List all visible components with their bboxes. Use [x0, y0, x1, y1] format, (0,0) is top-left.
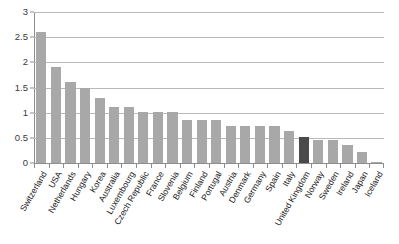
bar-austria[interactable]: [226, 126, 236, 163]
x-axis-labels: SwitzerlandUSANetherlandsHungaryKoreaAus…: [34, 168, 384, 244]
x-label-wrap: Korea: [92, 168, 107, 244]
bar-slot: [63, 12, 78, 163]
bar-slot: [165, 12, 180, 163]
bar-slot: [296, 12, 311, 163]
x-label-wrap: Finland: [194, 168, 209, 244]
bar-slot: [136, 12, 151, 163]
bar-italy[interactable]: [284, 131, 294, 163]
y-tick-label: 1.5: [15, 83, 28, 93]
bar-slot: [369, 12, 384, 163]
bar-slot: [107, 12, 122, 163]
bar-slot: [238, 12, 253, 163]
bar-slot: [92, 12, 107, 163]
x-label-wrap: France: [151, 168, 166, 244]
bar-luxembourg[interactable]: [124, 107, 134, 163]
bar-finland[interactable]: [197, 120, 207, 163]
y-tick-label: 2: [23, 58, 28, 68]
bar-belgium[interactable]: [182, 120, 192, 163]
x-label-wrap: Spain: [267, 168, 282, 244]
bar-spain[interactable]: [269, 126, 279, 163]
plot-area: [34, 12, 384, 163]
bar-germany[interactable]: [255, 126, 265, 163]
x-label-wrap: United Kingdom: [297, 168, 312, 244]
bar-slot: [209, 12, 224, 163]
x-label-wrap: Austria: [224, 168, 239, 244]
bar-slot: [267, 12, 282, 163]
x-label-wrap: Belgium: [180, 168, 195, 244]
x-axis-label-spain: Spain: [264, 170, 282, 193]
bar-czech-republic[interactable]: [138, 112, 148, 163]
bar-slot: [194, 12, 209, 163]
bar-slot: [180, 12, 195, 163]
bar-netherlands[interactable]: [65, 82, 75, 163]
x-label-wrap: Switzerland: [34, 168, 49, 244]
x-label-wrap: Netherlands: [63, 168, 78, 244]
bar-united-kingdom[interactable]: [299, 137, 309, 163]
bar-france[interactable]: [153, 112, 163, 163]
y-tick-label: 1: [23, 108, 28, 118]
bar-slot: [78, 12, 93, 163]
x-label-wrap: Japan: [355, 168, 370, 244]
bar-portugal[interactable]: [211, 120, 221, 163]
x-label-wrap: Sweden: [326, 168, 341, 244]
x-label-wrap: Hungary: [78, 168, 93, 244]
x-label-wrap: Norway: [311, 168, 326, 244]
bar-slot: [253, 12, 268, 163]
bar-australia[interactable]: [109, 107, 119, 163]
bar-denmark[interactable]: [240, 126, 250, 163]
bar-japan[interactable]: [357, 152, 367, 163]
y-tick-label: 2.5: [15, 32, 28, 42]
bar-slot: [151, 12, 166, 163]
y-tick-label: 3: [23, 7, 28, 17]
x-label-wrap: Czech Republic: [136, 168, 151, 244]
x-label-wrap: Iceland: [369, 168, 384, 244]
bar-norway[interactable]: [313, 140, 323, 163]
bar-slovenia[interactable]: [167, 112, 177, 163]
bar-slot: [121, 12, 136, 163]
bar-slot: [224, 12, 239, 163]
x-label-wrap: Portugal: [209, 168, 224, 244]
x-label-wrap: Denmark: [238, 168, 253, 244]
y-tick-label: 0: [23, 158, 28, 168]
bar-switzerland[interactable]: [36, 32, 46, 163]
bar-slot: [326, 12, 341, 163]
bar-usa[interactable]: [51, 67, 61, 163]
bar-slot: [49, 12, 64, 163]
bar-slot: [34, 12, 49, 163]
bars-container: [34, 12, 384, 163]
bar-slot: [282, 12, 297, 163]
x-label-wrap: Slovenia: [165, 168, 180, 244]
bar-hungary[interactable]: [80, 88, 90, 164]
bar-slot: [311, 12, 326, 163]
bar-ireland[interactable]: [342, 145, 352, 163]
x-label-wrap: Ireland: [340, 168, 355, 244]
bar-slot: [340, 12, 355, 163]
bar-chart: 00.511.522.53 SwitzerlandUSANetherlandsH…: [0, 0, 399, 244]
bar-sweden[interactable]: [328, 140, 338, 163]
bar-slot: [355, 12, 370, 163]
x-label-wrap: Germany: [253, 168, 268, 244]
y-tick-label: 0.5: [15, 133, 28, 143]
bar-korea[interactable]: [95, 98, 105, 163]
